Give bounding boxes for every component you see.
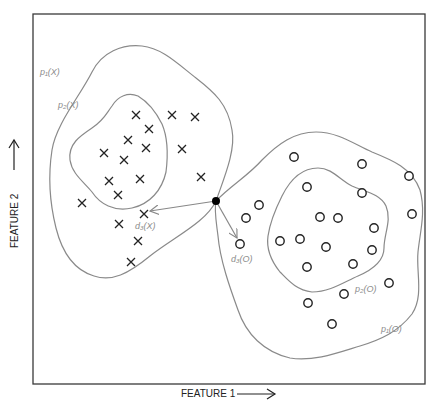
o-marker	[303, 263, 311, 271]
x-marker	[100, 149, 108, 157]
x-marker	[115, 220, 123, 228]
o-marker	[358, 160, 366, 168]
o-marker	[290, 153, 298, 161]
x-marker	[140, 210, 148, 218]
distance-arrow-x	[150, 201, 216, 211]
x-marker	[145, 125, 153, 133]
o-marker	[316, 213, 324, 221]
label-p2-x: p₂(X)	[57, 100, 78, 110]
x-marker	[127, 258, 135, 266]
x-marker	[178, 145, 186, 153]
o-marker	[276, 237, 284, 245]
o-marker	[255, 201, 263, 209]
o-marker	[385, 279, 393, 287]
x-marker	[78, 199, 86, 207]
x-axis-label-group: FEATURE 1	[181, 388, 275, 399]
class-o-markers	[236, 153, 416, 328]
o-marker	[328, 320, 336, 328]
x-marker	[132, 111, 140, 119]
label-d3-o: d₃(O)	[231, 254, 253, 264]
x-marker	[105, 177, 113, 185]
x-marker	[168, 111, 176, 119]
classification-diagram: p₁(X) p₂(X) p₂(O) p₁(O) d₃(X) d₃(O) FEAT…	[0, 0, 438, 407]
x-marker	[120, 156, 128, 164]
x-marker	[136, 175, 144, 183]
distance-arrow-o	[216, 201, 237, 238]
x-marker	[197, 173, 205, 181]
label-p2-o: p₂(O)	[354, 284, 376, 294]
o-marker	[304, 299, 312, 307]
x-marker	[124, 136, 132, 144]
plot-frame	[33, 14, 425, 384]
o-marker	[368, 246, 376, 254]
label-p1-o: p₁(O)	[380, 324, 402, 334]
o-marker	[334, 214, 342, 222]
x-marker	[134, 237, 142, 245]
o-marker	[358, 189, 366, 197]
y-axis-label: FEATURE 2	[9, 193, 20, 248]
class-x-markers	[78, 111, 205, 266]
label-d3-x: d₃(X)	[135, 221, 156, 231]
o-marker	[405, 172, 413, 180]
o-marker	[303, 183, 311, 191]
x-marker	[142, 144, 150, 152]
label-p1-x: p₁(X)	[39, 67, 60, 77]
query-point	[212, 197, 220, 205]
o-marker	[242, 214, 250, 222]
contour-p1-x	[50, 46, 233, 278]
y-axis-label-group: FEATURE 2	[9, 140, 20, 248]
o-marker	[340, 290, 348, 298]
x-marker	[191, 113, 199, 121]
contour-p2-x	[70, 94, 167, 209]
o-marker	[236, 240, 244, 248]
x-marker	[114, 191, 122, 199]
o-marker	[296, 235, 304, 243]
o-marker	[349, 260, 357, 268]
x-axis-label: FEATURE 1	[181, 388, 236, 399]
o-marker	[370, 224, 378, 232]
o-marker	[322, 243, 330, 251]
o-marker	[408, 210, 416, 218]
